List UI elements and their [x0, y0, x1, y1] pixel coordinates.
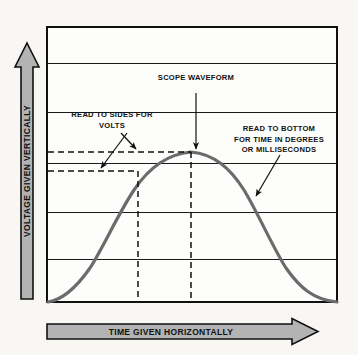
gridline-4	[48, 212, 336, 213]
annotation-read-to-sides-for-volts: READ TO SIDES FOR VOLTS	[60, 110, 164, 131]
annotation-read-to-bottom-for-time: READ TO BOTTOM FOR TIME IN DEGREES OR MI…	[224, 124, 334, 156]
horizontal-axis-arrow-icon	[46, 317, 320, 346]
gridline-5	[48, 259, 336, 260]
gridline-3	[48, 163, 336, 164]
gridline-1	[48, 63, 336, 64]
graph-grid-frame	[46, 26, 338, 303]
vertical-axis-arrow-icon	[13, 41, 41, 301]
annotation-scope-waveform: SCOPE WAVEFORM	[144, 73, 248, 84]
scope-waveform-figure: VOLTAGE GIVEN VERTICALLY TIME GIVEN HORI…	[0, 0, 358, 355]
